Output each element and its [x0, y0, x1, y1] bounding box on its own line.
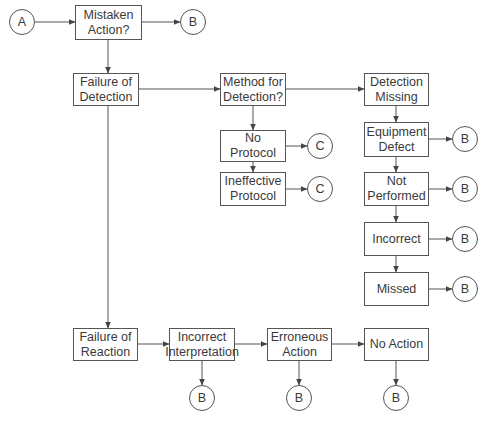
node-mistaken-action: Mistaken Action? — [75, 5, 142, 40]
connector-b: B — [189, 385, 215, 411]
connector-b: B — [383, 385, 409, 411]
node-missed: Missed — [364, 272, 429, 306]
connector-a: A — [9, 9, 35, 35]
connector-b: B — [452, 126, 478, 152]
node-failure-of-reaction: Failure of Reaction — [73, 328, 138, 361]
node-detection-missing: Detection Missing — [364, 73, 429, 106]
connector-b: B — [452, 276, 478, 302]
node-erroneous-action: Erroneous Action — [267, 328, 332, 361]
node-incorrect: Incorrect — [364, 222, 429, 256]
node-no-action: No Action — [364, 328, 429, 361]
node-failure-of-detection: Failure of Detection — [73, 73, 139, 106]
node-no-protocol: No Protocol — [220, 130, 286, 162]
connector-b: B — [286, 385, 312, 411]
node-ineffective-protocol: Ineffective Protocol — [220, 172, 286, 206]
connector-b: B — [452, 176, 478, 202]
connector-c: C — [307, 176, 333, 202]
node-method-for-detection: Method for Detection? — [220, 73, 286, 106]
connector-b: B — [452, 226, 478, 252]
node-equipment-defect: Equipment Defect — [364, 122, 429, 157]
node-not-performed: Not Performed — [364, 172, 429, 206]
connector-c: C — [307, 133, 333, 159]
connector-b: B — [180, 9, 206, 35]
node-incorrect-interpretation: Incorrect Interpretation — [169, 328, 235, 361]
